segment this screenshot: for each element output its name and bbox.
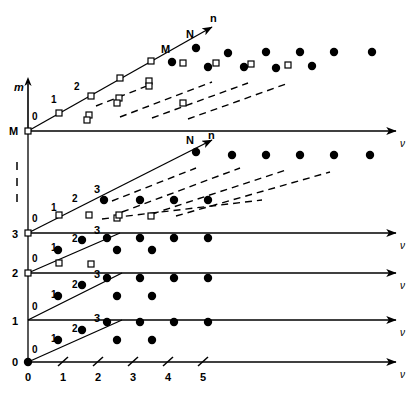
nu-label-band-Mminus: ν [400, 240, 405, 251]
x-tick-1: 1 [60, 371, 66, 383]
special-point-N-label: N [186, 28, 194, 40]
band-M: ν n [25, 12, 405, 149]
diag-index-3-band-2: 3 [94, 268, 100, 280]
diag-index-0-band-2: 0 [32, 301, 38, 312]
filled-circles-band-M [168, 44, 376, 72]
x-tick-4: 4 [165, 371, 172, 383]
diag-index-0-band-3: 0 [32, 253, 38, 264]
diag-index-1-band-1: 1 [51, 333, 57, 344]
nu-label-band-M: ν [400, 138, 405, 149]
m-tick-2: 2 [12, 267, 18, 279]
n-label-band-Mminus: n [208, 129, 215, 141]
diag-index-0-band-1: 0 [32, 344, 38, 355]
diag-index-0-band-Mminus: 0 [32, 213, 38, 224]
diag-index-2-band-M: 2 [74, 81, 80, 92]
diag-index-2-band-3: 2 [72, 233, 78, 244]
diag-index-2-band-2: 2 [72, 279, 78, 290]
diag-index-1-band-3: 1 [51, 242, 57, 253]
open-squares-band-M [25, 58, 291, 134]
m-tick-3: 3 [12, 228, 18, 240]
diag-index-1-band-Mminus: 1 [51, 202, 57, 213]
diag-index-2-band-1: 2 [72, 323, 78, 334]
n-label-band-M: n [210, 12, 217, 24]
nu-label-band-2: ν [400, 327, 405, 338]
nu-label-band-3: ν [400, 280, 405, 291]
m-tick-M: M [9, 125, 18, 137]
band-1: ν 0 1 2 3 0 1 2 3 4 [24, 312, 405, 383]
diag-index-2-band-Mminus: 2 [72, 193, 78, 204]
m-tick-1: 1 [12, 315, 18, 327]
diag-index-1-band-M: 1 [51, 94, 57, 105]
band-Mminus: ν n N [25, 129, 405, 251]
m-axis-label: m [14, 81, 24, 93]
diag-index-0-band-M: 0 [32, 111, 38, 122]
diag-index-1-band-2: 1 [51, 289, 57, 300]
diag-index-3-band-Mminus: 3 [94, 183, 100, 195]
special-point-M-label: M [161, 43, 170, 55]
figure-canvas: m M 3 2 1 0 ν n [0, 0, 416, 395]
special-point-N-label-band-Mminus: N [186, 134, 194, 146]
lattice-diagram: m M 3 2 1 0 ν n [0, 0, 416, 395]
x-tick-5: 5 [200, 371, 206, 383]
m-tick-0: 0 [12, 356, 18, 368]
origin-dot [24, 358, 32, 366]
nu-label-band-1: ν [400, 369, 405, 380]
diag-index-3-band-3: 3 [94, 224, 100, 236]
x-tick-3: 3 [130, 371, 136, 383]
diag-index-3-band-1: 3 [94, 312, 100, 324]
x-tick-2: 2 [95, 371, 101, 383]
dashed-lines-band-M [96, 82, 286, 119]
x-tick-0: 0 [25, 371, 31, 383]
dashed-lines-band-Mminus [102, 168, 330, 219]
